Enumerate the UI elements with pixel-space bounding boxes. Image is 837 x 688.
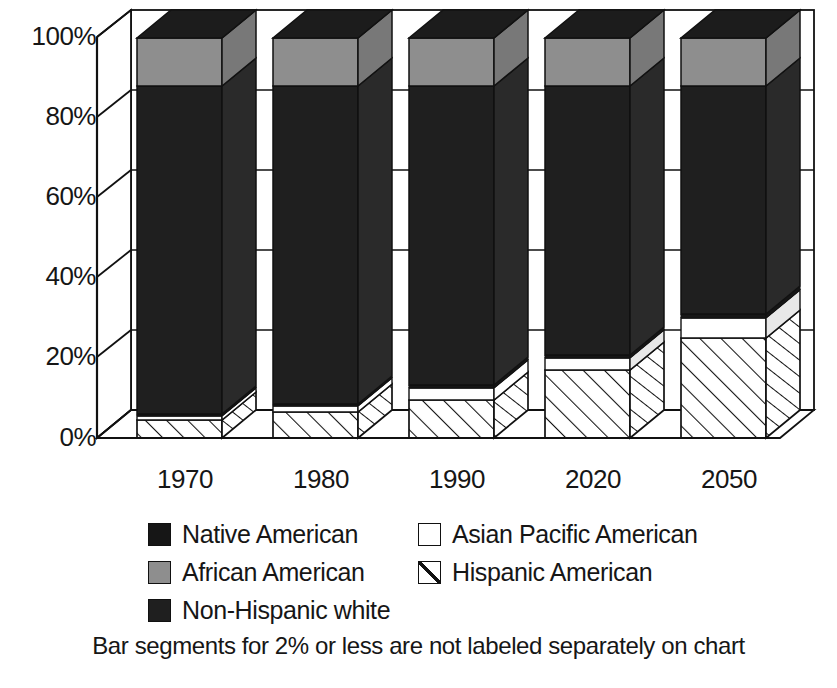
segment-1980-non-hispanic-white-side (358, 58, 392, 404)
segment-2020-non-hispanic-white-side (630, 58, 664, 355)
bar-group-2050 (681, 10, 800, 438)
legend-swatch-asian-pacific-american-icon (418, 523, 441, 546)
x-tick-2020: 2020 (533, 466, 653, 492)
legend-item-african-american[interactable]: African American (148, 560, 365, 585)
legend-swatch-african-american-icon (148, 561, 171, 584)
segment-2050-non-hispanic-white-side (766, 58, 800, 314)
y-tick-0: 0% (59, 424, 96, 450)
legend-swatch-non-hispanic-white-icon (148, 599, 171, 622)
y-axis-labels: 100% 80% 60% 40% 20% 0% (10, 0, 96, 460)
legend-label-african-american: African American (182, 560, 365, 585)
segment-1980-hispanic-american (273, 412, 358, 438)
left-wall (97, 10, 131, 438)
segment-1970-african-american (137, 38, 222, 86)
segment-1990-african-american (409, 38, 494, 86)
legend-item-non-hispanic-white[interactable]: Non-Hispanic white (148, 598, 390, 623)
y-tick-20: 20% (45, 343, 96, 369)
segment-1970-hispanic-american (137, 420, 222, 438)
bar-group-2020 (545, 10, 664, 438)
segment-1990-asian-pacific-american (409, 388, 494, 400)
y-tick-40: 40% (45, 263, 96, 289)
legend-label-native-american: Native American (182, 522, 358, 547)
segment-1980-asian-pacific-american (273, 406, 358, 412)
legend-item-asian-pacific-american[interactable]: Asian Pacific American (418, 522, 697, 547)
x-tick-1970: 1970 (125, 466, 245, 492)
legend-item-native-american[interactable]: Native American (148, 522, 358, 547)
chart-canvas (0, 0, 837, 512)
y-tick-60: 60% (45, 183, 96, 209)
chart-legend: Native American Asian Pacific American A… (0, 518, 837, 638)
y-tick-100: 100% (32, 23, 97, 49)
x-axis-labels: 1970 1980 1990 2020 2050 (0, 466, 837, 506)
segment-2050-non-hispanic-white (681, 86, 766, 314)
x-tick-2050: 2050 (669, 466, 789, 492)
segment-1990-hispanic-american (409, 400, 494, 438)
segment-1970-non-hispanic-white (137, 86, 222, 414)
legend-item-hispanic-american[interactable]: Hispanic American (418, 560, 652, 585)
segment-2050-hispanic-american (681, 338, 766, 438)
legend-swatch-hispanic-american-icon (418, 561, 441, 584)
segment-2020-non-hispanic-white (545, 86, 630, 355)
segment-1970-asian-pacific-american (137, 416, 222, 420)
segment-1990-non-hispanic-white (409, 86, 494, 385)
segment-2020-asian-pacific-american (545, 358, 630, 370)
bar-group-1980 (273, 10, 392, 438)
segment-2050-asian-pacific-american (681, 318, 766, 338)
legend-label-asian-pacific-american: Asian Pacific American (452, 522, 697, 547)
segment-2020-hispanic-american (545, 370, 630, 438)
legend-swatch-native-american-icon (148, 523, 171, 546)
x-tick-1980: 1980 (261, 466, 381, 492)
x-tick-1990: 1990 (397, 466, 517, 492)
segment-1980-african-american (273, 38, 358, 86)
stacked-column-chart-figure: 100% 80% 60% 40% 20% 0% 1970 1980 1990 2… (0, 0, 837, 688)
legend-label-non-hispanic-white: Non-Hispanic white (182, 598, 390, 623)
plot-area: 100% 80% 60% 40% 20% 0% 1970 1980 1990 2… (0, 0, 837, 512)
segment-1990-non-hispanic-white-side (494, 58, 528, 385)
chart-footnote: Bar segments for 2% or less are not labe… (0, 632, 837, 660)
segment-1980-non-hispanic-white (273, 86, 358, 404)
y-tick-80: 80% (45, 103, 96, 129)
segment-1970-non-hispanic-white-side (222, 58, 256, 414)
legend-label-hispanic-american: Hispanic American (452, 560, 652, 585)
bar-group-1970 (137, 10, 256, 438)
segment-2020-african-american (545, 38, 630, 86)
segment-2050-african-american (681, 38, 766, 86)
bar-group-1990 (409, 10, 528, 438)
